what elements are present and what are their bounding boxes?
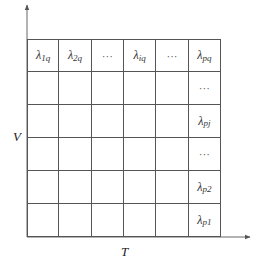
ellipsis: ··· — [102, 50, 113, 62]
grid-cell — [27, 72, 59, 105]
grid-cell — [92, 105, 124, 138]
grid-cell — [59, 171, 91, 204]
grid-cell — [59, 204, 91, 237]
grid-cell — [27, 204, 59, 237]
x-axis-label: T — [121, 244, 128, 260]
grid-cell — [124, 72, 156, 105]
grid-cell — [59, 138, 91, 171]
grid-cell: ··· — [189, 72, 221, 105]
grid-cell — [59, 72, 91, 105]
lambda-subscript: p1 — [202, 217, 211, 227]
grid-cell: ··· — [156, 39, 188, 72]
grid-cell: λp1 — [189, 204, 221, 237]
lambda-subscript: 1q — [41, 53, 50, 63]
grid-cell — [156, 171, 188, 204]
grid-cell: λpq — [189, 39, 221, 72]
grid-cell — [124, 105, 156, 138]
grid-cell — [92, 171, 124, 204]
ellipsis: ··· — [199, 82, 210, 94]
lambda-matrix-grid: λ1qλ2q···λiq···λpq···λpj···λp2λp1 — [27, 39, 221, 237]
lambda-subscript: iq — [139, 53, 146, 63]
grid-cell — [124, 138, 156, 171]
grid-cell — [156, 138, 188, 171]
lambda-subscript: pj — [203, 118, 210, 128]
grid-cell — [27, 105, 59, 138]
grid-cell — [124, 171, 156, 204]
lambda-subscript: p2 — [202, 184, 211, 194]
grid-cell: λpj — [189, 105, 221, 138]
grid-cell — [27, 138, 59, 171]
grid-cell: λ2q — [59, 39, 91, 72]
ellipsis: ··· — [166, 50, 177, 62]
grid-cell — [156, 72, 188, 105]
grid-cell: λiq — [124, 39, 156, 72]
grid-cell — [59, 105, 91, 138]
grid-cell — [156, 204, 188, 237]
ellipsis: ··· — [199, 148, 210, 160]
lambda-subscript: 2q — [73, 53, 82, 63]
grid-cell — [124, 204, 156, 237]
grid-cell — [92, 204, 124, 237]
grid-cell — [92, 138, 124, 171]
grid-cell — [156, 105, 188, 138]
grid-cell: ··· — [189, 138, 221, 171]
grid-cell: ··· — [92, 39, 124, 72]
grid-cell: λ1q — [27, 39, 59, 72]
grid-cell — [92, 72, 124, 105]
grid-cell — [27, 171, 59, 204]
grid-cell: λp2 — [189, 171, 221, 204]
lambda-subscript: pq — [202, 53, 211, 63]
y-axis-label: V — [13, 129, 21, 145]
